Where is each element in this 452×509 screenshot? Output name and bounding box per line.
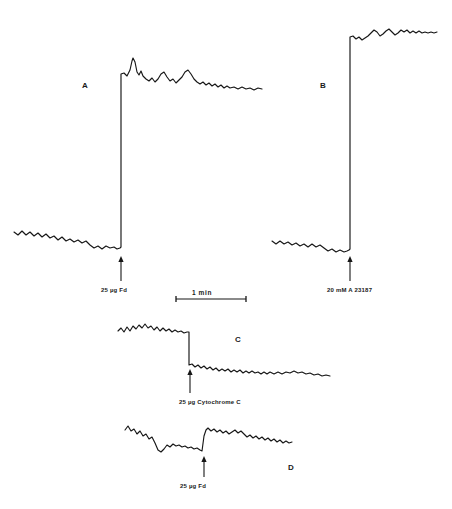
event-arrows-group bbox=[118, 256, 352, 477]
arrow-head-icon bbox=[118, 256, 123, 262]
panel-letter-d: D bbox=[288, 464, 294, 472]
panel-letter-c: C bbox=[235, 336, 241, 344]
time-scale-bar bbox=[176, 296, 246, 302]
arrow-head-icon bbox=[347, 256, 352, 262]
trace-d bbox=[125, 426, 292, 452]
event-arrow-panel-b bbox=[347, 256, 352, 281]
figure-root: A B C D 25 µg Fd 20 mM A 23187 25 µg Cyt… bbox=[0, 0, 452, 509]
event-arrow-panel-a bbox=[118, 256, 123, 281]
event-label-panel-a: 25 µg Fd bbox=[101, 287, 127, 293]
event-arrow-panel-d bbox=[201, 456, 206, 477]
trace-c bbox=[118, 324, 330, 376]
panel-letter-b: B bbox=[320, 82, 326, 90]
event-label-panel-c: 25 µg Cytochrome C bbox=[179, 399, 241, 405]
event-label-panel-b: 20 mM A 23187 bbox=[327, 287, 372, 293]
time-scale-bar-label: 1 min bbox=[192, 290, 212, 297]
trace-canvas bbox=[0, 0, 452, 509]
panel-letter-a: A bbox=[82, 82, 88, 90]
arrow-head-icon bbox=[187, 369, 192, 375]
trace-b bbox=[272, 29, 437, 252]
arrow-head-icon bbox=[201, 456, 206, 462]
traces-group bbox=[14, 29, 437, 452]
trace-a bbox=[14, 58, 262, 249]
event-label-panel-d: 25 µg Fd bbox=[180, 483, 206, 489]
event-arrow-panel-c bbox=[187, 369, 192, 393]
